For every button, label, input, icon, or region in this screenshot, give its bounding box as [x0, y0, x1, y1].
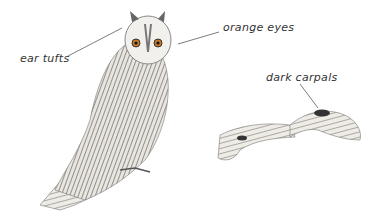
label-orange-eyes: orange eyes — [223, 21, 294, 34]
dark-carpal-patch-right — [314, 110, 330, 117]
leader-ear-tufts — [68, 28, 122, 56]
owl-body — [55, 44, 168, 200]
owl-facial-disc — [125, 16, 171, 64]
leader-dark-carpals — [300, 84, 318, 108]
dark-carpal-patch-left — [237, 136, 247, 141]
perched-owl — [40, 11, 171, 210]
flying-owl-left-wing — [218, 124, 295, 160]
label-dark-carpals: dark carpals — [266, 71, 338, 84]
owl-illustration — [0, 0, 381, 221]
leader-orange-eyes — [178, 32, 219, 44]
label-ear-tufts: ear tufts — [20, 52, 69, 65]
flying-owl — [218, 110, 361, 160]
